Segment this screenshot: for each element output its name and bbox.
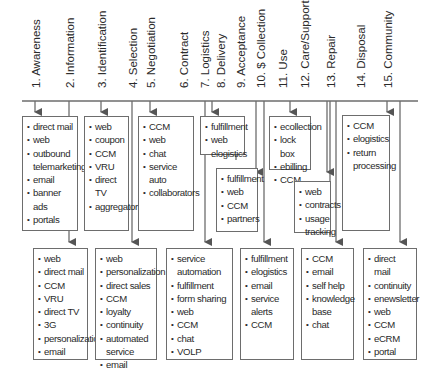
- channel-item: personalization: [38, 332, 84, 345]
- channel-item: service auto: [143, 160, 190, 187]
- box-awareness-channels: direct mail web outbound telemarketing e…: [22, 116, 78, 231]
- stage-label-delivery: 8. Delivery: [215, 34, 227, 88]
- channel-item: web: [38, 252, 84, 265]
- stage-label-repair: 13. Repair: [325, 35, 337, 88]
- channel-item: VRU: [38, 292, 84, 305]
- stage-label-awareness: 1. Awareness: [30, 19, 42, 88]
- channel-item: CCM: [347, 119, 386, 132]
- channel-item: enewsletter: [368, 292, 413, 305]
- channel-item: lock box: [274, 133, 307, 160]
- box-delivery-channels: fulfillment web elogistics: [200, 116, 245, 155]
- channel-item: web: [221, 185, 254, 198]
- stage-label-contract: 6. Contract: [178, 32, 190, 88]
- box-identification-channels: web coupon CCM VRU direct TV aggregators: [84, 116, 129, 231]
- channel-item: web: [143, 133, 190, 146]
- channel-item: web: [368, 305, 413, 318]
- channel-item: usage tracking: [299, 212, 327, 239]
- channel-item: VRU: [89, 160, 125, 173]
- channel-item: knowledge base: [306, 292, 350, 319]
- stage-label-acceptance: 9. Acceptance: [235, 16, 247, 88]
- box-information-channels: web direct mail CCM VRU direct TV 3G per…: [33, 248, 88, 360]
- box-use-channels: ecollection lock box ebilling CCM: [269, 116, 311, 170]
- channel-item: email: [27, 173, 74, 186]
- channel-item: web: [171, 305, 229, 318]
- box-acceptance-channels: fulfillment web CCM partners: [216, 168, 258, 232]
- channel-item: collaborators: [143, 186, 190, 199]
- channel-item: chat: [143, 147, 190, 160]
- channel-item: ecollection: [274, 120, 307, 133]
- channel-item: web: [89, 120, 125, 133]
- channel-item: CCM: [245, 318, 290, 331]
- channel-item: fulfillment: [221, 172, 254, 185]
- channel-item: contracts: [299, 198, 327, 211]
- box-collection-channels: fulfillment elogistics email service ale…: [240, 248, 294, 360]
- channel-item: return processing: [347, 146, 386, 173]
- channel-item: automated service: [100, 332, 153, 359]
- channel-item: partners: [221, 212, 254, 225]
- box-disposal-channels: CCM elogistics return processing: [342, 115, 390, 231]
- channel-item: web: [27, 133, 74, 146]
- channel-item: aggregators: [89, 200, 125, 213]
- channel-item: email: [100, 358, 153, 371]
- channel-item: fulfillment: [245, 252, 290, 265]
- box-repair-channels: CCM email self help knowledge base chat: [301, 248, 354, 360]
- stage-label-information: 2. Information: [64, 18, 76, 88]
- channel-item: 3G: [38, 318, 84, 331]
- stage-label-negotiation: 5. Negotiation: [145, 17, 157, 88]
- channel-item: web: [299, 185, 327, 198]
- channel-item: direct TV: [89, 173, 125, 200]
- stage-label-identification: 3. Identification: [96, 11, 108, 88]
- box-negotiation-channels: CCM web chat service auto collaborators: [138, 116, 194, 231]
- channel-item: CCM: [306, 252, 350, 265]
- channel-item: elogistics: [347, 132, 386, 145]
- channel-item: fulfillment: [171, 279, 229, 292]
- stage-label-care-support: 12. Care/Support: [299, 0, 311, 88]
- box-logistics-channels: service automation fulfillment form shar…: [166, 248, 233, 360]
- channel-item: outbound telemarketing: [27, 147, 74, 174]
- channel-item: web elogistics: [205, 133, 241, 160]
- channel-item: personalization: [100, 265, 153, 278]
- customer-lifecycle-diagram: 1. Awareness 2. Information 3. Identific…: [0, 0, 438, 375]
- channel-item: portals: [27, 213, 74, 226]
- channel-item: coupon: [89, 133, 125, 146]
- channel-item: CCM: [100, 292, 153, 305]
- channel-item: form sharing: [171, 292, 229, 305]
- channel-item: banner ads: [27, 186, 74, 213]
- box-community-channels: direct mail continuity enewsletter web C…: [363, 248, 417, 360]
- channel-item: CCM: [143, 120, 190, 133]
- stage-label-selection: 4. Selection: [127, 28, 139, 88]
- stage-label-logistics: 7. Logistics: [199, 30, 211, 88]
- channel-item: direct mail: [38, 265, 84, 278]
- channel-item: self help: [306, 279, 350, 292]
- channel-item: CCM: [171, 318, 229, 331]
- channel-item: direct mail: [368, 252, 413, 279]
- channel-item: email: [245, 279, 290, 292]
- channel-item: ebilling: [274, 160, 307, 173]
- channel-item: loyalty: [100, 305, 153, 318]
- channel-item: web: [100, 252, 153, 265]
- channel-item: CCM: [221, 199, 254, 212]
- stage-label-use: 11. Use: [277, 49, 289, 88]
- channel-item: CCM: [368, 318, 413, 331]
- channel-item: chat: [171, 332, 229, 345]
- stage-label-community: 15. Community: [382, 11, 394, 88]
- channel-item: chat: [306, 318, 350, 331]
- channel-item: continuity: [100, 318, 153, 331]
- channel-item: email: [306, 265, 350, 278]
- channel-item: elogistics: [245, 265, 290, 278]
- channel-item: CCM: [38, 279, 84, 292]
- channel-item: service automation: [171, 252, 229, 279]
- channel-item: eCRM: [368, 332, 413, 345]
- channel-item: direct mail: [27, 120, 74, 133]
- channel-item: direct TV: [38, 305, 84, 318]
- channel-item: VOLP: [171, 345, 229, 358]
- channel-item: continuity: [368, 279, 413, 292]
- stage-label-disposal: 14. Disposal: [355, 25, 367, 88]
- channel-item: direct sales: [100, 279, 153, 292]
- channel-item: fulfillment: [205, 120, 241, 133]
- stage-label-collection: 10. $ Collection: [255, 9, 267, 88]
- channel-item: service alerts: [245, 292, 290, 319]
- channel-item: email: [38, 345, 84, 358]
- box-selection-channels: web personalization direct sales CCM loy…: [95, 248, 157, 360]
- channel-item: CCM: [89, 147, 125, 160]
